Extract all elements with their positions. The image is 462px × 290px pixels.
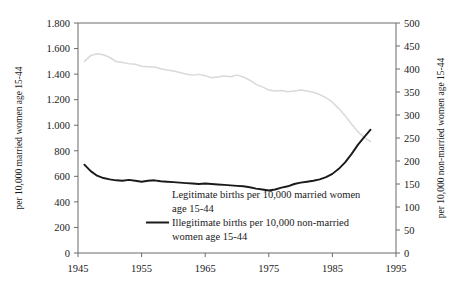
left-axis-title: per 10,000 married women age 15-44 (14, 66, 24, 209)
right-axis-tick-label: 500 (404, 18, 420, 29)
chart-figure: 02004006008001.0001.2001.4001.6001.800 0… (0, 0, 462, 290)
left-axis-tick-label: 1.800 (46, 18, 70, 29)
line-chart: 02004006008001.0001.2001.4001.6001.800 0… (0, 0, 462, 290)
right-axis-tick-label: 350 (404, 87, 420, 98)
legend-label-line1: Illegitimate births per 10,000 non-marri… (172, 217, 350, 228)
x-axis-tick-label: 1985 (322, 263, 343, 274)
right-axis-tick-label: 50 (404, 225, 415, 236)
left-axis-tick-label: 1.200 (46, 94, 70, 105)
left-axis: 02004006008001.0001.2001.4001.6001.800 (46, 18, 78, 259)
right-axis: 050100150200250300350400450500 (396, 18, 420, 259)
x-axis-tick-label: 1965 (195, 263, 216, 274)
right-axis-tick-label: 300 (404, 110, 420, 121)
x-axis-tick-label: 1955 (131, 263, 152, 274)
left-axis-tick-label: 1.600 (46, 43, 70, 54)
left-axis-tick-label: 800 (54, 146, 70, 157)
right-axis-tick-label: 100 (404, 202, 420, 213)
right-axis-title: per 10,000 non-married women age 15-44 (436, 58, 446, 219)
left-axis-tick-label: 200 (54, 222, 70, 233)
legend-label-line1: Legitimate births per 10,000 married wom… (172, 189, 361, 200)
right-axis-tick-label: 450 (404, 41, 420, 52)
legend-label-line2: age 15-44 (172, 203, 214, 214)
left-axis-tick-label: 0 (65, 248, 70, 259)
x-axis-tick-label: 1975 (258, 263, 279, 274)
left-axis-tick-label: 1.400 (46, 69, 70, 80)
left-axis-tick-label: 1.000 (46, 120, 70, 131)
right-axis-tick-label: 250 (404, 133, 420, 144)
x-axis-tick-label: 1995 (386, 263, 407, 274)
right-axis-tick-label: 0 (404, 248, 409, 259)
legend-label-line2: women age 15-44 (172, 231, 248, 242)
right-axis-tick-label: 200 (404, 156, 420, 167)
right-axis-tick-label: 400 (404, 64, 420, 75)
left-axis-tick-label: 600 (54, 171, 70, 182)
right-axis-tick-label: 150 (404, 179, 420, 190)
x-axis-tick-label: 1945 (68, 263, 89, 274)
x-axis: 194519551965197519851995 (68, 253, 407, 274)
left-axis-tick-label: 400 (54, 197, 70, 208)
